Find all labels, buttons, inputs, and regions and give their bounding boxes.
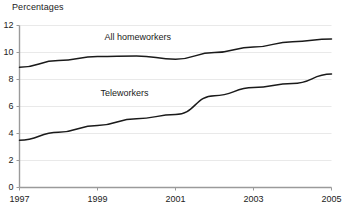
x-tick-label: 2001 [156,194,196,204]
y-tick-label: 0 [0,182,14,192]
x-tick-label: 1999 [78,194,118,204]
gridlines [20,26,332,188]
line-chart: Percentages 024681012 199719992001200320… [0,0,344,211]
axis-ticks [17,26,332,191]
y-tick-label: 2 [0,155,14,165]
x-tick-label: 1997 [0,194,40,204]
series-lines [20,39,332,140]
series-label-0: All homeworkers [104,32,171,42]
x-tick-label: 2005 [312,194,344,204]
y-tick-label: 12 [0,20,14,30]
y-tick-label: 8 [0,74,14,84]
x-tick-label: 2003 [234,194,274,204]
chart-plot-area [0,0,344,211]
y-tick-label: 4 [0,128,14,138]
y-tick-label: 6 [0,101,14,111]
series-line-1 [20,74,332,140]
series-label-1: Teleworkers [101,88,149,98]
y-tick-label: 10 [0,47,14,57]
series-line-0 [20,39,332,67]
